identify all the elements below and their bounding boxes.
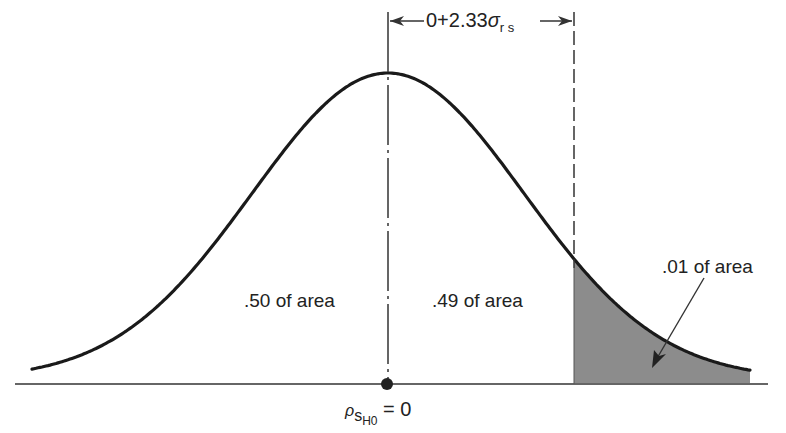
subscript-s: s (354, 407, 362, 424)
dimension-value: 0+2.33 (426, 9, 488, 31)
distribution-diagram (0, 0, 786, 433)
mean-point (381, 378, 393, 390)
mean-label: ρsH0 = 0 (345, 398, 411, 428)
rho-symbol: ρ (345, 402, 354, 419)
dimension-label: 0+2.33σr s (426, 9, 514, 35)
tail-area-label: .01 of area (662, 256, 753, 278)
subscript-h0: H0 (362, 414, 377, 428)
left-area-label: .50 of area (244, 290, 335, 312)
sigma-symbol: σ (488, 9, 500, 31)
equals-zero: = 0 (383, 398, 411, 420)
normal-curve (32, 73, 750, 370)
middle-area-label: .49 of area (432, 290, 523, 312)
sigma-subscript: r s (500, 20, 514, 35)
